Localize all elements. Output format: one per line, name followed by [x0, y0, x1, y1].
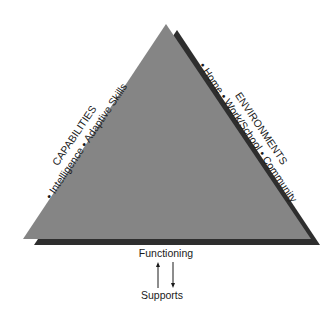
supports-label: Supports — [141, 289, 183, 301]
triangle-diagram: CAPABILITIES • Intelligence • Adaptive S… — [0, 0, 335, 319]
down-arrow-icon — [171, 262, 175, 288]
functioning-label: Functioning — [139, 247, 193, 259]
up-arrow-icon — [156, 262, 160, 288]
